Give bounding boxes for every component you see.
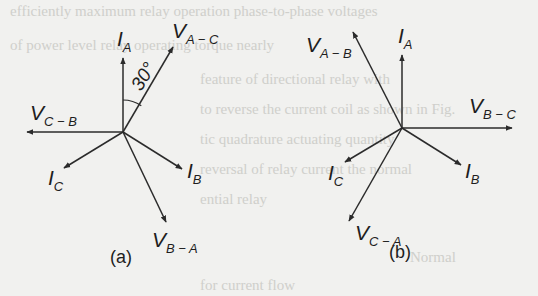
svg-text:feature of directional relay w: feature of directional relay with	[200, 71, 390, 87]
panel-caption-b: (b)	[389, 242, 411, 262]
phasor-label-i-c: IC	[48, 166, 64, 194]
phasor-panel-a: IAVA − CVC − BICIBVB − A30°(a)	[27, 19, 219, 267]
phasor-figure: efficiently maximum relay operation phas…	[0, 0, 538, 296]
phasor-label-v-a-b: VA − B	[306, 33, 352, 61]
svg-text:of power level relay operating: of power level relay operating torque ne…	[10, 37, 275, 53]
svg-text:to reverse the current coil as: to reverse the current coil as shown in …	[200, 101, 455, 117]
phasor-label-i-b: IB	[465, 159, 480, 187]
svg-text:reversal of relay current the: reversal of relay current the normal	[200, 161, 412, 177]
phasor-label-v-b-a: VB − A	[152, 228, 198, 256]
phasor-arrow-i-c	[64, 132, 123, 168]
phasor-arrow-v-a-c	[123, 47, 173, 132]
phasor-label-v-b-c: VB − C	[469, 94, 517, 122]
phasor-arrow-i-b	[402, 128, 461, 165]
svg-text:Normal: Normal	[410, 249, 456, 265]
panel-caption-a: (a)	[110, 247, 132, 267]
svg-text:ential relay: ential relay	[200, 191, 268, 207]
phasor-diagram-canvas: efficiently maximum relay operation phas…	[0, 0, 538, 296]
phasor-label-i-a: IA	[398, 24, 413, 52]
angle-label: 30°	[127, 58, 160, 94]
svg-text:tic quadrature actuating quant: tic quadrature actuating quantity	[200, 131, 395, 147]
svg-text:efficiently maximum relay oper: efficiently maximum relay operation phas…	[10, 3, 378, 19]
svg-text:for current flow: for current flow	[200, 277, 295, 293]
phasor-label-v-c-b: VC − B	[30, 101, 77, 129]
